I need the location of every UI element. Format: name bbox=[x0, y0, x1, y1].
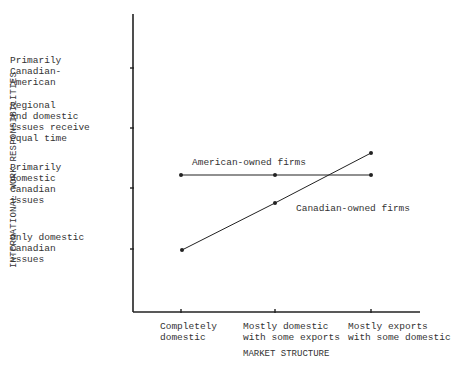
series-label-canadian: Canadian-owned firms bbox=[296, 203, 410, 214]
x-axis-title: MARKET STRUCTURE bbox=[243, 349, 329, 359]
y-level-label: Only domestic Canadian issues bbox=[10, 232, 84, 265]
chart-plot bbox=[0, 0, 462, 375]
y-level-label: Regional and domestic issues receive equ… bbox=[10, 100, 90, 144]
series-label-american: American-owned firms bbox=[192, 157, 306, 168]
y-axis-title: INTERNATIONAL WORK RESPONSIBILITIES bbox=[9, 72, 19, 268]
x-tick-label: Mostly exports with some domestic bbox=[348, 321, 451, 343]
x-tick-label: Completely domestic bbox=[160, 321, 217, 343]
x-tick-label: Mostly domestic with some exports bbox=[243, 321, 340, 343]
